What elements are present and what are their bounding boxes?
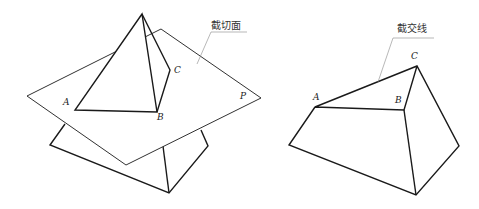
leader-line-intersection [378,38,434,82]
label-P: P [240,92,246,101]
callout-section-plane: 截切面 [211,21,241,31]
callout-intersection-line: 截交线 [397,24,427,34]
label-A-left: A [63,98,70,107]
label-A-right: A [313,93,320,102]
label-B-right: B [395,96,402,105]
label-C-right: C [411,52,418,61]
label-C-left: C [174,66,181,75]
diagram-canvas: 截切面 A B C P 截交线 A B C [0,0,479,209]
right-figure [289,38,459,195]
label-B-left: B [157,113,164,122]
